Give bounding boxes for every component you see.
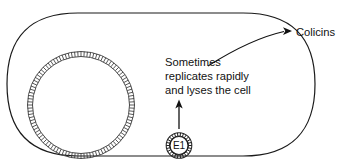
- colicins-label: Colicins: [296, 26, 336, 38]
- replication-note-line-2: replicates rapidly: [165, 70, 249, 82]
- chromosome-ring: [28, 52, 135, 159]
- diagram-canvas: E1 Sometimes replicates rapidly and lyse…: [0, 0, 342, 168]
- cell-wall-outline: [7, 13, 315, 156]
- replication-note-line-3: and lyses the cell: [165, 84, 251, 96]
- colicin-plasmid: E1: [166, 133, 192, 159]
- replication-note-line-1: Sometimes: [165, 56, 221, 68]
- chromosome-hatching: [28, 52, 135, 159]
- replication-note: Sometimes replicates rapidly and lyses t…: [165, 56, 251, 96]
- colicin-plasmid-diagram: E1 Sometimes replicates rapidly and lyse…: [0, 0, 342, 168]
- arrow-up-icon: [175, 100, 182, 130]
- plasmid-label: E1: [173, 140, 186, 151]
